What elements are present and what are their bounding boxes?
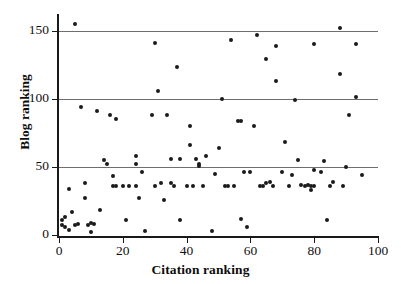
data-point — [92, 222, 96, 226]
data-point — [271, 184, 275, 188]
x-tick-label-40: 40 — [167, 243, 207, 259]
data-point — [79, 105, 83, 109]
data-point — [134, 184, 138, 188]
data-point — [178, 157, 182, 161]
data-point — [67, 187, 71, 191]
data-point — [213, 172, 217, 176]
data-point — [229, 38, 233, 42]
data-point — [293, 98, 297, 102]
data-point — [172, 184, 176, 188]
data-point — [134, 162, 138, 166]
data-point — [245, 225, 249, 229]
data-point — [354, 42, 358, 46]
data-point — [280, 170, 284, 174]
data-point — [220, 97, 224, 101]
x-tick-label-20: 20 — [103, 243, 143, 259]
data-point — [98, 208, 102, 212]
scatter-plot-figure: 050100150020406080100 Citation ranking B… — [0, 0, 401, 284]
data-point — [105, 162, 109, 166]
data-point — [322, 159, 326, 163]
data-point — [67, 228, 71, 232]
data-point — [242, 170, 246, 174]
data-point — [283, 140, 287, 144]
data-point — [114, 117, 118, 121]
data-point — [252, 124, 256, 128]
data-point — [188, 143, 192, 147]
data-point — [344, 165, 348, 169]
data-point — [290, 173, 294, 177]
data-point — [137, 196, 141, 200]
data-point — [255, 33, 259, 37]
data-point — [165, 113, 169, 117]
x-axis-line — [57, 236, 379, 238]
data-point — [210, 229, 214, 233]
x-axis-title: Citation ranking — [0, 262, 401, 278]
data-point — [175, 65, 179, 69]
data-point — [268, 180, 272, 184]
data-point — [150, 113, 154, 117]
data-point — [89, 230, 93, 234]
data-point — [159, 181, 163, 185]
data-point — [360, 173, 364, 177]
data-point — [178, 218, 182, 222]
data-point — [153, 41, 157, 45]
data-point — [127, 184, 131, 188]
data-point — [338, 26, 342, 30]
data-point — [194, 157, 198, 161]
data-point — [201, 184, 205, 188]
data-point — [248, 170, 252, 174]
data-point — [239, 119, 243, 123]
x-tick-label-80: 80 — [294, 243, 334, 259]
x-tick-label-0: 0 — [39, 243, 79, 259]
data-point — [312, 168, 316, 172]
data-point — [169, 157, 173, 161]
y-tick-label-0: 0 — [0, 226, 49, 242]
data-point — [287, 184, 291, 188]
y-tick-label-150: 150 — [0, 22, 49, 38]
data-point — [226, 184, 230, 188]
data-point — [111, 174, 115, 178]
data-point — [197, 164, 201, 168]
data-point — [76, 222, 80, 226]
data-point — [328, 184, 332, 188]
y-axis-title: Blog ranking — [17, 42, 33, 182]
data-point — [108, 113, 112, 117]
data-point — [319, 170, 323, 174]
data-point — [296, 158, 300, 162]
data-point — [162, 198, 166, 202]
data-point — [239, 217, 243, 221]
data-point — [331, 180, 335, 184]
data-point — [95, 109, 99, 113]
y-tick-100 — [52, 99, 58, 100]
x-tick-label-100: 100 — [358, 243, 398, 259]
data-point — [217, 146, 221, 150]
y-tick-0 — [52, 235, 58, 236]
data-point — [325, 218, 329, 222]
data-point — [140, 170, 144, 174]
data-point — [274, 44, 278, 48]
data-point — [124, 218, 128, 222]
data-point — [264, 57, 268, 61]
data-point — [83, 181, 87, 185]
data-point — [83, 196, 87, 200]
data-point — [312, 184, 316, 188]
data-point — [121, 184, 125, 188]
data-point — [134, 154, 138, 158]
x-tick-label-60: 60 — [230, 243, 270, 259]
y-tick-150 — [52, 31, 58, 32]
data-point — [188, 124, 192, 128]
data-point — [70, 210, 74, 214]
data-point — [232, 184, 236, 188]
data-point — [114, 184, 118, 188]
data-point — [204, 154, 208, 158]
data-point — [153, 184, 157, 188]
data-point — [191, 184, 195, 188]
y-tick-50 — [52, 167, 58, 168]
data-point — [312, 42, 316, 46]
data-point — [347, 113, 351, 117]
data-point — [63, 215, 67, 219]
data-point — [156, 89, 160, 93]
data-point — [274, 79, 278, 83]
data-point — [338, 72, 342, 76]
data-point — [185, 184, 189, 188]
